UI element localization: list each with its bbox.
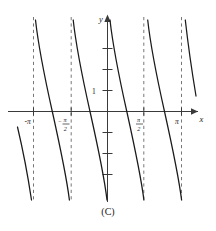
graph-svg: y x 1 -π − π 2 π 2 π bbox=[0, 0, 216, 231]
x-tick-label-neg-pi-over-2-numerator: π bbox=[64, 116, 68, 123]
x-tick-label-neg-pi-text: -π bbox=[25, 117, 31, 126]
curve-branch-2 bbox=[73, 20, 107, 200]
y-tick-label-1: 1 bbox=[92, 87, 96, 96]
curve-branch-1 bbox=[36, 20, 70, 200]
curve-branch-4 bbox=[148, 20, 182, 200]
curve-branch-leftmost bbox=[18, 127, 32, 200]
y-axis-label: y bbox=[98, 14, 103, 24]
x-tick-label-pi-over-2: π 2 bbox=[136, 116, 143, 132]
curve-group bbox=[18, 20, 197, 200]
x-tick-label-neg-pi-over-2: − π 2 bbox=[58, 116, 70, 132]
x-tick-label-neg-pi-over-2-denominator: 2 bbox=[64, 125, 67, 132]
figure-caption: (C) bbox=[0, 206, 216, 217]
graph-figure: y x 1 -π − π 2 π 2 π bbox=[0, 0, 216, 231]
x-axis-arrowhead bbox=[191, 108, 198, 114]
x-tick-label-pi: π bbox=[175, 117, 179, 126]
x-tick-label-neg-pi-over-2-minus: − bbox=[58, 118, 62, 125]
x-tick-label-pi-over-2-numerator: π bbox=[137, 116, 141, 123]
x-tick-label-pi-text: π bbox=[175, 117, 179, 126]
curve-branch-3 bbox=[110, 20, 144, 200]
curve-branch-rightmost bbox=[185, 20, 196, 96]
x-tick-label-pi-over-2-denominator: 2 bbox=[137, 125, 140, 132]
x-axis-label: x bbox=[199, 114, 204, 124]
x-tick-label-neg-pi: -π bbox=[25, 117, 31, 126]
